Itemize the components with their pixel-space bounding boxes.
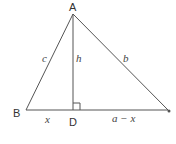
triangle-diagram: A B D c h b x a − x <box>0 0 176 144</box>
vertex-d-label: D <box>69 116 77 128</box>
vertex-a-label: A <box>69 1 77 13</box>
vertex-b-label: B <box>13 107 20 119</box>
side-b-label: b <box>123 52 129 64</box>
vertex-c-dot <box>168 110 171 113</box>
altitude-h-label: h <box>76 52 82 64</box>
segment-x-label: x <box>44 113 50 125</box>
right-angle-marker <box>73 103 80 110</box>
side-ac <box>73 14 168 110</box>
side-ab <box>26 14 73 110</box>
side-c-label: c <box>42 52 47 64</box>
segment-a-minus-x-label: a − x <box>112 112 135 124</box>
